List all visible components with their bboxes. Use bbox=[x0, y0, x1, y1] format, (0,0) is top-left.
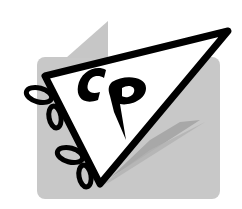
folded-tab bbox=[66, 21, 108, 58]
pennant-logo-graphic bbox=[0, 0, 242, 209]
cp-pennant-logo: CP bbox=[0, 0, 242, 209]
